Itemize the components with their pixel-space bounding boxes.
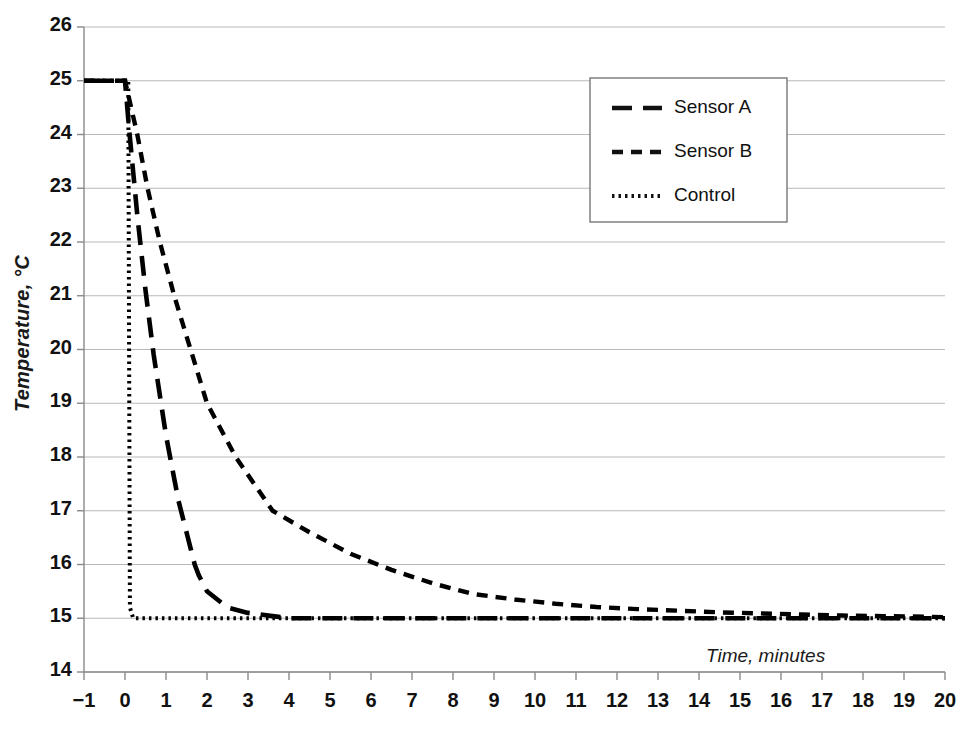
y-tick-label-19: 19 [26,389,72,412]
x-tick-label-7: 7 [389,689,435,712]
x-tick-label-8: 8 [430,689,476,712]
x-tick-label-16: 16 [758,689,804,712]
y-tick-label-14: 14 [26,658,72,681]
x-tick-label-15: 15 [717,689,763,712]
y-tick-label-16: 16 [26,551,72,574]
legend-label-sensor-a[interactable]: Sensor A [674,96,751,118]
gridlines [84,27,945,672]
x-tick-label-4: 4 [266,689,312,712]
x-tick-label-10: 10 [512,689,558,712]
x-tick-label-14: 14 [676,689,722,712]
x-tick-label-12: 12 [594,689,640,712]
x-tick-label-11: 11 [553,689,599,712]
y-tick-label-23: 23 [26,174,72,197]
x-tick-label-9: 9 [471,689,517,712]
y-tick-label-24: 24 [26,121,72,144]
x-tick-label-1: 1 [143,689,189,712]
plot-area [0,0,956,729]
x-tick-label-6: 6 [348,689,394,712]
series-line-sensor-b [84,81,945,617]
y-tick-label-25: 25 [26,67,72,90]
y-tick-label-18: 18 [26,443,72,466]
temperature-decay-chart: Temperature, °C Time, minutes 2625242322… [0,0,956,729]
y-tick-label-21: 21 [26,282,72,305]
x-tick-label-13: 13 [635,689,681,712]
y-tick-label-17: 17 [26,497,72,520]
x-tick-label-neg1: −1 [61,689,107,712]
y-tick-label-20: 20 [26,336,72,359]
x-tick-label-17: 17 [799,689,845,712]
y-tick-label-15: 15 [26,604,72,627]
x-tick-label-2: 2 [184,689,230,712]
y-tick-label-26: 26 [26,13,72,36]
x-tick-label-3: 3 [225,689,271,712]
axis-ticks [77,27,945,680]
x-tick-label-19: 19 [881,689,927,712]
legend-label-control[interactable]: Control [674,184,735,206]
y-tick-label-22: 22 [26,228,72,251]
x-tick-label-18: 18 [840,689,886,712]
x-tick-label-20: 20 [922,689,956,712]
x-tick-label-0: 0 [102,689,148,712]
x-tick-label-5: 5 [307,689,353,712]
legend-label-sensor-b[interactable]: Sensor B [674,140,752,162]
x-axis-title: Time, minutes [706,645,825,667]
